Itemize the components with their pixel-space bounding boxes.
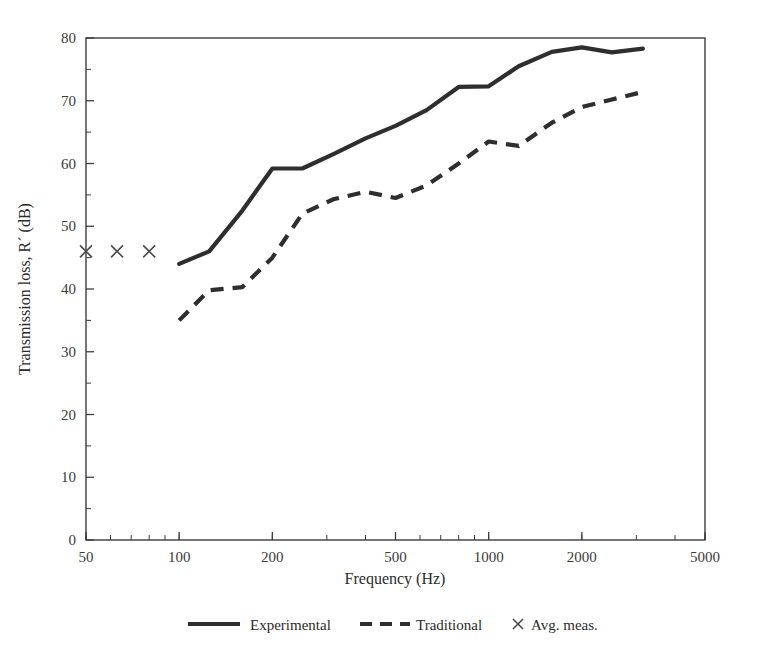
y-tick-label: 30	[61, 344, 76, 360]
plot-frame	[86, 38, 705, 540]
y-tick-label: 20	[61, 407, 76, 423]
avg-meas-markers	[80, 245, 155, 257]
y-tick-label: 60	[61, 156, 76, 172]
y-tick-label: 10	[61, 469, 76, 485]
figure-container: 50100200500100020005000 0102030405060708…	[0, 0, 764, 657]
x-axis-tick-labels: 50100200500100020005000	[79, 549, 721, 565]
x-tick-label: 1000	[474, 549, 504, 565]
x-tick-label: 2000	[567, 549, 597, 565]
y-tick-label: 0	[69, 532, 77, 548]
y-tick-label: 50	[61, 218, 76, 234]
legend-label-experimental: Experimental	[250, 617, 331, 633]
series-experimental-line	[179, 47, 643, 263]
series-traditional-line	[179, 92, 643, 320]
y-tick-label: 70	[61, 93, 76, 109]
legend-label-traditional: Traditional	[416, 617, 482, 633]
x-axis-title: Frequency (Hz)	[345, 570, 446, 588]
avg-meas-marker	[143, 245, 155, 257]
y-tick-label: 80	[61, 30, 76, 46]
y-axis-ticks	[86, 38, 94, 540]
x-axis-ticks	[86, 532, 705, 540]
x-tick-label: 100	[168, 549, 191, 565]
y-axis-title: Transmission loss, R´ (dB)	[16, 203, 34, 375]
legend-label-avg-meas: Avg. meas.	[531, 617, 598, 633]
x-tick-label: 5000	[690, 549, 720, 565]
avg-meas-marker	[111, 245, 123, 257]
x-tick-label: 500	[384, 549, 407, 565]
y-axis-tick-labels: 01020304050607080	[61, 30, 76, 548]
transmission-loss-chart: 50100200500100020005000 0102030405060708…	[0, 0, 764, 657]
x-tick-label: 50	[79, 549, 94, 565]
x-tick-label: 200	[261, 549, 284, 565]
chart-legend: Experimental Traditional Avg. meas.	[188, 617, 598, 633]
y-tick-label: 40	[61, 281, 76, 297]
legend-swatch-avg-meas	[513, 619, 523, 629]
